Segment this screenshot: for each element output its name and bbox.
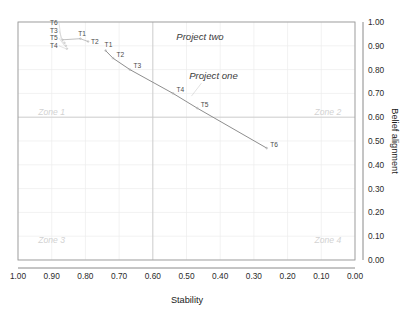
y-tick-label: 0.00 (368, 255, 385, 265)
point-label-project-one-T4: T4 (177, 86, 185, 93)
point-label-project-one-T2: T2 (117, 51, 125, 58)
x-tick-label: 0.10 (313, 271, 330, 281)
x-tick-label: 0.00 (347, 271, 364, 281)
x-tick-label: 0.50 (178, 271, 195, 281)
leader-project-one (191, 83, 201, 96)
x-tick-label: 0.20 (280, 271, 297, 281)
y-tick-label: 0.80 (368, 65, 385, 75)
y-tick-label: 1.00 (368, 17, 385, 27)
y-tick-label: 0.50 (368, 136, 385, 146)
y-tick-label: 0.70 (368, 88, 385, 98)
series-annotation-project-two: Project two (176, 31, 224, 42)
data-point-project-two-T4 (66, 48, 68, 50)
y-tick-label: 0.10 (368, 231, 385, 241)
x-tick-label: 0.30 (246, 271, 263, 281)
point-label-project-two-T4: T4 (50, 42, 58, 49)
y-tick-label: 0.40 (368, 160, 385, 170)
zone-3-label: Zone 3 (37, 235, 65, 245)
zone-1-label: Zone 1 (37, 107, 65, 117)
y-tick-label: 0.90 (368, 41, 385, 51)
x-tick-label: 0.60 (145, 271, 162, 281)
zone-2-label: Zone 2 (314, 107, 342, 117)
scatter-line-plot: Zone 1Zone 2Zone 3Zone 4 T1T2T3T4T5T6Pro… (0, 0, 401, 314)
y-axis-title: Belief alignment (390, 108, 400, 174)
leader-project-two-T4 (59, 46, 66, 49)
y-tick-label: 0.30 (368, 184, 385, 194)
point-label-project-two-T2: T2 (91, 38, 99, 45)
x-tick-label: 0.40 (212, 271, 229, 281)
data-point-project-two-T3 (64, 42, 66, 44)
y-tick-label: 0.20 (368, 207, 385, 217)
gridlines-layer (18, 22, 355, 260)
x-axis-title: Stability (171, 295, 204, 305)
zone-labels-layer: Zone 1Zone 2Zone 3Zone 4 (37, 107, 341, 246)
point-label-project-one-T5: T5 (201, 101, 209, 108)
y-axis: 0.000.100.200.300.400.500.600.700.800.90… (363, 17, 385, 265)
x-axis: 1.000.900.800.700.600.500.400.300.200.10… (10, 268, 364, 281)
point-label-project-two-T1: T1 (78, 30, 86, 37)
point-label-project-one-T6: T6 (270, 141, 278, 148)
zone-4-label: Zone 4 (314, 235, 342, 245)
series-line-project-two (63, 39, 89, 42)
point-label-project-two-T3: T3 (50, 27, 58, 34)
point-label-project-one-T3: T3 (133, 62, 141, 69)
point-label-project-two-T6: T6 (50, 19, 58, 26)
x-tick-label: 0.80 (77, 271, 94, 281)
y-tick-label: 0.60 (368, 112, 385, 122)
point-label-project-one-T1: T1 (105, 41, 113, 48)
chart-container: Zone 1Zone 2Zone 3Zone 4 T1T2T3T4T5T6Pro… (0, 0, 401, 314)
x-tick-label: 1.00 (10, 271, 27, 281)
point-label-project-two-T5: T5 (50, 34, 58, 41)
series-annotation-project-one: Project one (189, 70, 238, 81)
series-layer: T1T2T3T4T5T6Project oneT6T3T5T4T1T2Proje… (50, 19, 278, 149)
x-tick-label: 0.70 (111, 271, 128, 281)
x-tick-label: 0.90 (44, 271, 61, 281)
